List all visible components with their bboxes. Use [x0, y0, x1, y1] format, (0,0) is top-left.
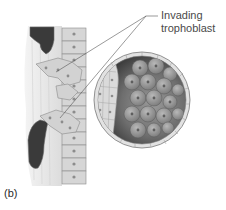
uterine-epithelium — [62, 28, 86, 184]
callout-line-1: Invading — [161, 9, 215, 22]
callout-line-2: trophoblast — [161, 22, 215, 35]
callout-invading-trophoblast: Invading trophoblast — [161, 9, 215, 34]
panel-label: (b) — [4, 187, 17, 200]
blastocyst — [90, 52, 190, 148]
